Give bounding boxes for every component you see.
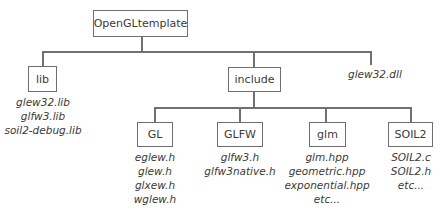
gl-folder-label: GL [148,128,163,141]
gl-stem [154,107,156,122]
glm-file-list: glm.hpp geometric.hpp exponential.hpp et… [283,150,371,206]
include-folder-node: include [228,67,281,92]
lib-file-list: glew32.lib glfw3.lib soil2-debug.lib [0,95,86,137]
file-item: exponential.hpp [283,178,371,192]
dll-stem [370,51,372,65]
file-item: glm.hpp [283,150,371,164]
file-item: geometric.hpp [283,164,371,178]
gl-file-list: eglew.h glew.h glxew.h wglew.h [125,150,185,206]
level1-bar [42,51,372,53]
file-item: wglew.h [125,192,185,206]
gl-folder-node: GL [137,122,173,147]
file-item: SOIL2.c [381,150,441,164]
file-item: glxew.h [125,178,185,192]
glm-folder-label: glm [317,128,338,141]
file-item: glew.h [125,164,185,178]
include-stem [253,51,255,67]
file-item: eglew.h [125,150,185,164]
dll-file-label: glew32.dll [348,68,402,80]
soil2-stem [410,107,412,122]
file-item: glew32.lib [0,95,86,109]
lib-folder-label: lib [36,73,49,86]
file-item: soil2-debug.lib [0,123,86,137]
file-item: glfw3.h [195,150,285,164]
file-item: glfw3native.h [195,164,285,178]
level2-bar [154,107,412,109]
file-item: SOIL2.h [381,164,441,178]
glfw-folder-label: GLFW [224,128,256,141]
include-down-stem [253,92,255,108]
root-folder-node: OpenGLtemplate [93,10,188,37]
glm-folder-node: glm [309,122,346,147]
lib-stem [42,51,44,66]
include-folder-label: include [235,73,275,86]
glm-stem [325,107,327,122]
file-item: glfw3.lib [0,109,86,123]
glfw-stem [239,107,241,122]
file-item: etc... [283,192,371,206]
root-folder-label: OpenGLtemplate [94,17,188,30]
soil2-folder-node: SOIL2 [388,122,433,147]
glfw-file-list: glfw3.h glfw3native.h [195,150,285,178]
soil2-file-list: SOIL2.c SOIL2.h etc... [381,150,441,192]
soil2-folder-label: SOIL2 [394,128,426,141]
glfw-folder-node: GLFW [217,122,263,147]
file-item: etc... [381,178,441,192]
lib-folder-node: lib [28,66,57,92]
